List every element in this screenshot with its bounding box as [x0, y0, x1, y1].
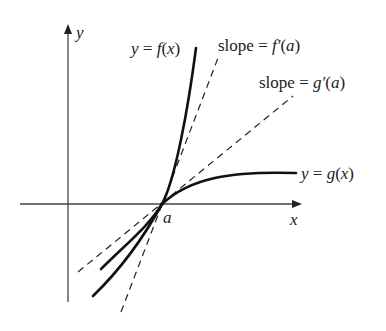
- f-slope-label: slope = f′(a): [218, 36, 300, 55]
- g-curve-label: y = g(x): [299, 164, 354, 183]
- g-slope-a: a: [331, 73, 340, 92]
- g-slope-close: ): [339, 73, 345, 92]
- point-a-label: a: [163, 208, 172, 227]
- g-slope-word: slope =: [259, 73, 313, 92]
- g-label-func: g: [327, 164, 336, 183]
- g-label-close: ): [348, 164, 354, 183]
- derivative-slope-diagram: y x a y = f(x) slope = f′(a) slope = g′(…: [0, 0, 386, 331]
- f-slope-a: a: [286, 36, 295, 55]
- f-label-eq: =: [139, 39, 157, 58]
- f-label-close: ): [175, 39, 181, 58]
- f-curve-label: y = f(x): [129, 39, 180, 58]
- point-a-marker: [160, 202, 164, 206]
- g-label-y: y: [299, 164, 309, 183]
- g-slope-func: g′: [313, 73, 326, 92]
- g-curve: [93, 173, 296, 296]
- x-axis-label: x: [289, 210, 298, 229]
- g-slope-label: slope = g′(a): [259, 73, 345, 92]
- f-label-y: y: [129, 39, 139, 58]
- f-slope-func: f′: [272, 36, 281, 55]
- f-slope-word: slope =: [218, 36, 272, 55]
- f-curve: [101, 48, 196, 269]
- y-axis-label: y: [74, 23, 84, 42]
- g-label-eq: =: [309, 164, 327, 183]
- f-slope-close: ): [295, 36, 301, 55]
